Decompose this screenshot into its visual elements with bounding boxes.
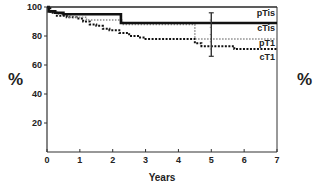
legend-label-ptis: pTis: [257, 8, 275, 18]
legend-label-pt1: pT1: [259, 38, 275, 48]
x-tick-label: 1: [77, 155, 82, 165]
x-axis-title: Years: [149, 172, 176, 183]
x-tick-label: 6: [242, 155, 247, 165]
series-layer: [47, 7, 277, 49]
y-tick-label: 80: [32, 31, 42, 41]
legend-label-ct1: cT1: [259, 52, 275, 62]
error-bars: [209, 13, 214, 57]
series-ctis: [47, 7, 277, 23]
y-tick-label: 60: [32, 60, 42, 70]
x-tick-label: 2: [110, 155, 115, 165]
x-tick-label: 7: [274, 155, 279, 165]
legend: pTis cTis pT1 cT1: [257, 8, 275, 62]
x-tick-label: 4: [176, 155, 181, 165]
y-tick-label: 100: [27, 2, 42, 12]
y-axis-title-right: %: [297, 70, 312, 89]
survival-chart: % % 20406080100 01234567 pTis cTis pT1 c…: [0, 0, 321, 185]
y-axis-title-left: %: [8, 70, 23, 89]
legend-label-ctis: cTis: [257, 23, 275, 33]
x-tick-label: 0: [44, 155, 49, 165]
y-tick-label: 20: [32, 118, 42, 128]
x-tick-label: 3: [143, 155, 148, 165]
x-tick-label: 5: [209, 155, 214, 165]
y-axis-ticks: 20406080100: [27, 2, 47, 128]
plot-frame: [47, 7, 277, 152]
y-tick-label: 40: [32, 89, 42, 99]
